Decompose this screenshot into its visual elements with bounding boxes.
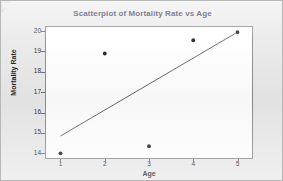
y-tick-mark bbox=[41, 133, 45, 134]
y-tick-mark bbox=[41, 31, 45, 32]
x-tick-mark bbox=[238, 159, 239, 163]
data-point bbox=[191, 38, 195, 42]
y-tick-label: 16 bbox=[27, 109, 41, 116]
data-points-group bbox=[59, 30, 240, 155]
x-tick-mark bbox=[149, 159, 150, 163]
chart-figure: Scatterplot of Mortality Rate vs Age 141… bbox=[0, 0, 283, 181]
y-tick-label: 18 bbox=[27, 68, 41, 75]
y-tick-label: 14 bbox=[27, 150, 41, 157]
regression-line bbox=[60, 32, 237, 136]
y-tick-label: 19 bbox=[27, 48, 41, 55]
plot-canvas bbox=[45, 26, 253, 159]
y-tick-label: 20 bbox=[27, 28, 41, 35]
data-point bbox=[103, 52, 107, 56]
data-point bbox=[236, 30, 240, 34]
fit-line bbox=[60, 32, 237, 136]
y-tick-mark bbox=[41, 51, 45, 52]
page-corner-mark bbox=[1, 1, 11, 13]
data-point bbox=[59, 151, 63, 155]
y-axis-title: Mortality Rate bbox=[10, 33, 17, 113]
y-axis-tick-labels: 14151617181920 bbox=[23, 26, 41, 159]
chart-title: Scatterplot of Mortality Rate vs Age bbox=[1, 9, 283, 18]
y-tick-label: 15 bbox=[27, 129, 41, 136]
x-tick-mark bbox=[60, 159, 61, 163]
data-point bbox=[147, 144, 151, 148]
y-tick-label: 17 bbox=[27, 89, 41, 96]
x-tick-mark bbox=[105, 159, 106, 163]
x-tick-mark bbox=[193, 159, 194, 163]
x-axis-title: Age bbox=[45, 170, 253, 177]
y-tick-mark bbox=[41, 92, 45, 93]
y-tick-mark bbox=[41, 153, 45, 154]
y-tick-mark bbox=[41, 72, 45, 73]
y-tick-mark bbox=[41, 113, 45, 114]
